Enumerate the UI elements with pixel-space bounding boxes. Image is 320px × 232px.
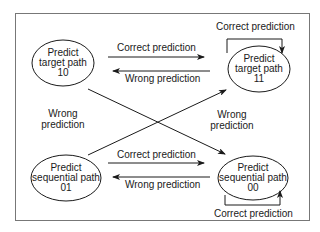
edge-10-to-00: Wrong prediction (41, 89, 225, 154)
edge-label-line2: prediction (41, 119, 84, 130)
edge-01-to-11: Wrong prediction (88, 90, 254, 155)
node-predict-target-11: Predict target path 11 (228, 46, 290, 92)
edge-01-to-00: Correct prediction (108, 149, 204, 163)
edge-label-line2: prediction (210, 120, 253, 131)
edge-11-to-10: Wrong prediction (113, 71, 210, 84)
node-label-line3: 10 (57, 67, 69, 78)
node-label-line3: 01 (60, 182, 72, 193)
state-diagram: Predict target path 10 Predict target pa… (0, 0, 320, 232)
node-predict-target-10: Predict target path 10 (32, 40, 94, 86)
node-label-line3: 00 (247, 182, 259, 193)
arrow-diagonal-down-icon (88, 89, 225, 154)
edge-label-line1: Wrong (48, 108, 77, 119)
edge-00-to-01: Wrong prediction (113, 177, 210, 190)
edge-label-line1: Wrong (217, 109, 246, 120)
edge-label: Correct prediction (117, 42, 196, 53)
edge-label: Correct prediction (117, 149, 196, 160)
edge-label: Correct prediction (214, 208, 293, 219)
edge-label: Wrong prediction (125, 73, 200, 84)
edge-label: Wrong prediction (125, 179, 200, 190)
edge-label: Correct prediction (216, 21, 295, 32)
node-predict-sequential-00: Predict sequential path 00 (218, 156, 288, 200)
node-label-line3: 11 (254, 73, 265, 84)
edge-10-to-11: Correct prediction (108, 42, 204, 57)
node-predict-sequential-01: Predict sequential path 01 (31, 155, 101, 201)
arrow-diagonal-up-icon (88, 90, 226, 155)
